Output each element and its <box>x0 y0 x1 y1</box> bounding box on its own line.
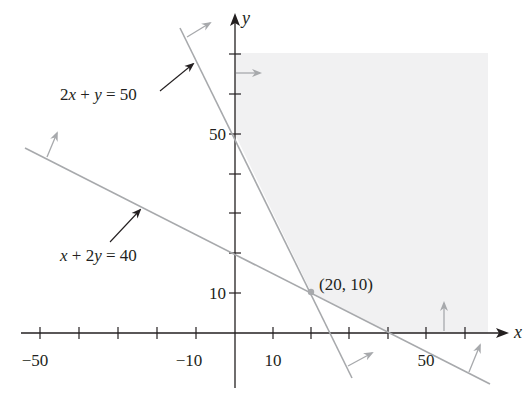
direction-arrow-icon <box>348 353 372 366</box>
direction-arrow-icon <box>469 345 480 372</box>
label-pointer-arrow-icon <box>160 64 193 91</box>
y-axis-label: y <box>240 8 250 28</box>
equation-label-x-plus-2y-40: x + 2y = 40 <box>59 246 137 265</box>
x-tick-label: −10 <box>176 351 203 370</box>
x-axis-label: x <box>513 322 522 342</box>
label-pointer-arrow-icon <box>110 210 140 242</box>
direction-arrow-icon <box>187 23 210 37</box>
y-tick-label: 10 <box>209 284 226 303</box>
direction-arrow-icon <box>47 133 57 157</box>
x-tick-label: 10 <box>265 351 282 370</box>
vertex-label: (20, 10) <box>319 275 373 294</box>
x-tick-label: 50 <box>418 351 435 370</box>
vertex-point <box>308 289 314 295</box>
lp-graph-figure: 2x + y = 50 x + 2y = 40 (20, 10) x y −50… <box>0 0 532 398</box>
x-tick-label: −50 <box>22 351 49 370</box>
equation-label-2x-plus-y-50: 2x + y = 50 <box>60 85 137 104</box>
y-tick-label: 50 <box>209 125 226 144</box>
